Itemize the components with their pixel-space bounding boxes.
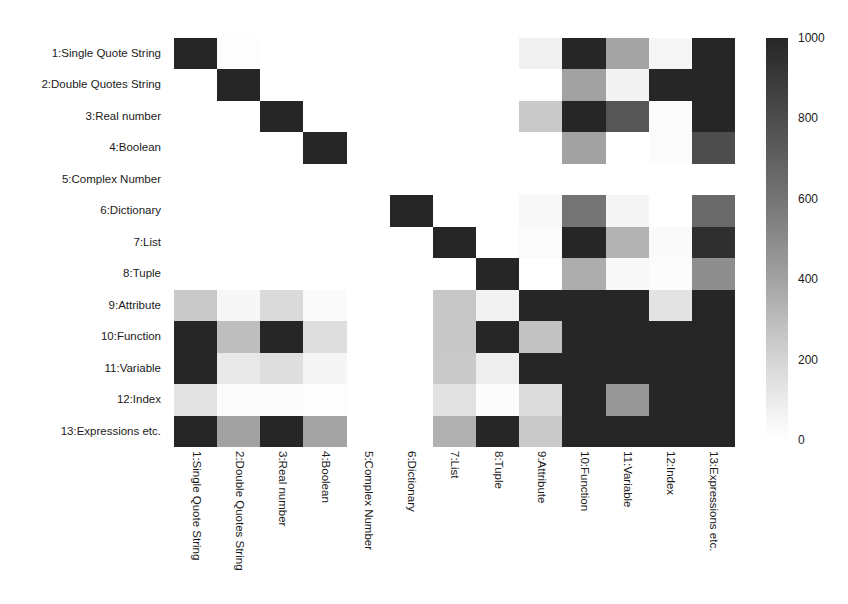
heatmap-cell: [649, 69, 692, 100]
heatmap-cell: [476, 38, 519, 69]
x-tick-slot-8: 8:Tuple: [476, 449, 519, 599]
heatmap-cell: [606, 321, 649, 352]
heatmap-cell: [606, 69, 649, 100]
heatmap-cell: [562, 227, 605, 258]
heatmap-cell: [303, 164, 346, 195]
heatmap-cell: [303, 353, 346, 384]
heatmap-cell: [433, 416, 476, 447]
heatmap-cell: [174, 416, 217, 447]
heatmap-cell: [217, 69, 260, 100]
heatmap-cell: [519, 132, 562, 163]
heatmap-cell: [260, 290, 303, 321]
heatmap-cell: [390, 258, 433, 289]
heatmap-cell: [303, 38, 346, 69]
heatmap-cell: [692, 101, 735, 132]
heatmap-cell: [347, 132, 390, 163]
heatmap-cell: [433, 69, 476, 100]
heatmap-cell: [519, 258, 562, 289]
x-tick-slot-7: 7:List: [433, 449, 476, 599]
x-tick-label-4: 4:Boolean: [319, 451, 331, 503]
heatmap-cell: [606, 38, 649, 69]
heatmap-cell: [433, 195, 476, 226]
heatmap-cell: [433, 290, 476, 321]
heatmap-cell: [174, 38, 217, 69]
heatmap-cell: [476, 321, 519, 352]
heatmap-cell: [519, 321, 562, 352]
x-tick-slot-1: 1:Single Quote String: [174, 449, 217, 599]
heatmap-cell: [433, 132, 476, 163]
heatmap-cell: [562, 101, 605, 132]
heatmap-cell: [519, 38, 562, 69]
heatmap-cell: [562, 353, 605, 384]
heatmap-cell: [260, 38, 303, 69]
colorbar-container: 02004006008001000: [766, 38, 846, 447]
heatmap-cell: [476, 227, 519, 258]
heatmap-cell: [174, 101, 217, 132]
heatmap-cell: [519, 69, 562, 100]
heatmap-cell: [692, 227, 735, 258]
heatmap-cell: [303, 132, 346, 163]
heatmap-cell: [562, 258, 605, 289]
x-axis-tick-labels: 1:Single Quote String2:Double Quotes Str…: [174, 449, 735, 599]
heatmap-cell: [260, 101, 303, 132]
heatmap-cell: [562, 321, 605, 352]
heatmap-cell: [692, 132, 735, 163]
heatmap-cell: [347, 227, 390, 258]
heatmap-cell: [217, 164, 260, 195]
x-tick-slot-4: 4:Boolean: [303, 449, 346, 599]
heatmap-cell: [433, 384, 476, 415]
x-tick-label-1: 1:Single Quote String: [190, 451, 202, 560]
heatmap-cell: [433, 321, 476, 352]
colorbar-tick-400: 400: [798, 273, 818, 285]
heatmap-cell: [217, 101, 260, 132]
heatmap-cell: [390, 132, 433, 163]
heatmap-cell: [347, 38, 390, 69]
heatmap-cell: [562, 384, 605, 415]
x-tick-slot-10: 10:Function: [562, 449, 605, 599]
heatmap-cell: [260, 353, 303, 384]
colorbar-tick-600: 600: [798, 193, 818, 205]
heatmap-cell: [390, 290, 433, 321]
x-tick-label-12: 12:Index: [665, 451, 677, 495]
heatmap-cell: [303, 69, 346, 100]
heatmap-cell: [347, 290, 390, 321]
heatmap-cell: [260, 227, 303, 258]
heatmap-cell: [217, 321, 260, 352]
heatmap-cell: [519, 384, 562, 415]
heatmap-cell: [649, 132, 692, 163]
heatmap-cell: [606, 353, 649, 384]
heatmap-cell: [260, 132, 303, 163]
heatmap-cell: [347, 321, 390, 352]
heatmap-cell: [519, 416, 562, 447]
heatmap-cell: [390, 353, 433, 384]
heatmap-cell: [347, 195, 390, 226]
heatmap-cell: [217, 132, 260, 163]
heatmap-cell: [390, 164, 433, 195]
heatmap-cell: [476, 290, 519, 321]
heatmap-cell: [606, 101, 649, 132]
heatmap-cell: [174, 69, 217, 100]
x-tick-label-6: 6:Dictionary: [406, 451, 418, 512]
heatmap-cell: [476, 69, 519, 100]
heatmap-cell: [390, 101, 433, 132]
y-tick-label-1: 1:Single Quote String: [0, 38, 168, 69]
heatmap-cell: [519, 290, 562, 321]
heatmap-cell: [519, 353, 562, 384]
heatmap-grid: [174, 38, 735, 447]
heatmap-cell: [217, 258, 260, 289]
heatmap-cell: [562, 132, 605, 163]
heatmap-cell: [303, 195, 346, 226]
heatmap-cell: [390, 416, 433, 447]
x-tick-slot-3: 3:Real number: [260, 449, 303, 599]
heatmap-cell: [606, 132, 649, 163]
heatmap-cell: [692, 164, 735, 195]
colorbar-tick-200: 200: [798, 354, 818, 366]
y-tick-label-6: 6:Dictionary: [0, 195, 168, 226]
heatmap-cell: [649, 353, 692, 384]
heatmap-cell: [476, 416, 519, 447]
heatmap-cell: [692, 258, 735, 289]
heatmap-cell: [390, 38, 433, 69]
x-tick-slot-6: 6:Dictionary: [390, 449, 433, 599]
y-tick-label-8: 8:Tuple: [0, 258, 168, 289]
heatmap-cell: [519, 195, 562, 226]
